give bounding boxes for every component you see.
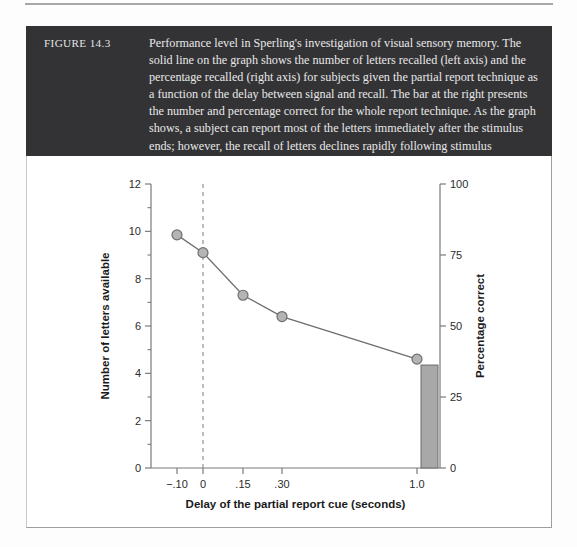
left-axis-tick-label: 2 [135, 415, 141, 427]
x-axis-tick-label: .30 [274, 478, 289, 490]
figure-number-label: FIGURE 14.3 [44, 35, 149, 49]
data-point-marker [412, 354, 422, 364]
left-axis-tick-label: 6 [135, 320, 141, 332]
figure-caption-text: Performance level in Sperling's investig… [149, 35, 538, 172]
whole-report-bar [421, 365, 438, 468]
x-axis-tick-label: 1.0 [409, 478, 424, 490]
y2-axis-title: Percentage correct [474, 274, 486, 378]
page-top-rule [25, 3, 553, 5]
partial-report-line [177, 235, 417, 359]
chart-panel: 0246810120255075100−.100.15.301.0Number … [26, 156, 552, 528]
figure-page: FIGURE 14.3 Performance level in Sperlin… [0, 0, 577, 547]
right-axis-tick-label: 50 [450, 320, 462, 332]
data-point-marker [198, 248, 208, 258]
right-axis-tick-label: 25 [450, 391, 462, 403]
right-axis-tick-label: 0 [450, 462, 456, 474]
left-axis-tick-label: 8 [135, 273, 141, 285]
left-axis-tick-label: 12 [129, 178, 141, 190]
x-axis-tick-label: .15 [235, 478, 250, 490]
figure-caption-band: FIGURE 14.3 Performance level in Sperlin… [26, 26, 552, 156]
left-axis-tick-label: 10 [129, 225, 141, 237]
x-axis-tick-label: 0 [200, 478, 206, 490]
x-axis-tick-label: −.10 [166, 478, 188, 490]
data-point-marker [238, 290, 248, 300]
right-axis-tick-label: 100 [450, 178, 468, 190]
left-axis-tick-label: 0 [135, 462, 141, 474]
x-axis-title: Delay of the partial report cue (seconds… [186, 498, 406, 510]
data-point-marker [277, 312, 287, 322]
plot-area: 0246810120255075100−.100.15.301.0Number … [27, 156, 553, 528]
right-axis-tick-label: 75 [450, 249, 462, 261]
data-point-marker [172, 230, 182, 240]
sperling-line-chart: 0246810120255075100−.100.15.301.0Number … [27, 156, 553, 528]
left-axis-tick-label: 4 [135, 367, 141, 379]
y-axis-title: Number of letters available [99, 253, 111, 400]
